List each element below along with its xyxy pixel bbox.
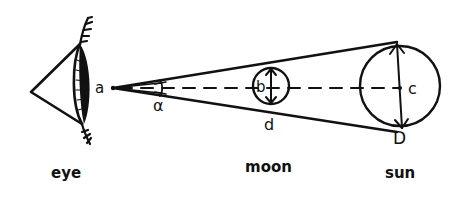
caption-moon: moon xyxy=(245,158,292,176)
label-c: c xyxy=(408,79,417,98)
sun-circle xyxy=(360,44,440,128)
eye-icon xyxy=(31,17,92,144)
caption-eye: eye xyxy=(51,164,81,182)
label-a: a xyxy=(95,79,104,97)
label-b: b xyxy=(256,78,266,96)
diagram-canvas: a α b d xyxy=(0,0,464,197)
label-d: d xyxy=(264,115,274,134)
caption-sun: sun xyxy=(385,164,415,182)
label-alpha: α xyxy=(153,96,164,115)
label-D: D xyxy=(393,128,406,148)
